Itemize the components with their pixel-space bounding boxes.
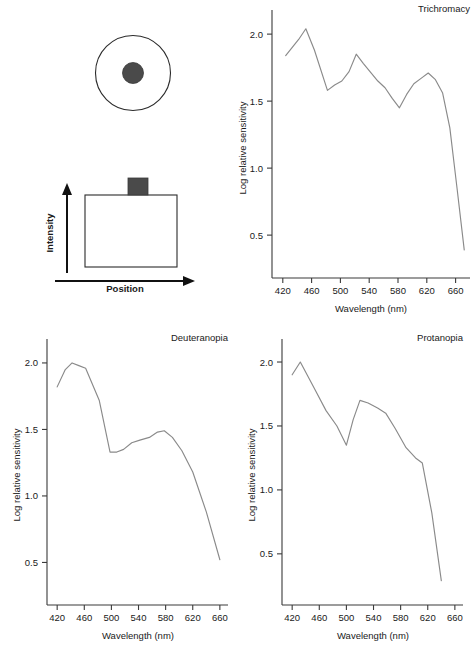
chart-svg-protanopia: 0.51.01.52.0 420460500540580620660 Log r… xyxy=(235,325,473,649)
chart-svg-trichromacy: 0.51.01.52.0 420460500540580620660 Log r… xyxy=(228,0,473,320)
chart-ylabel: Log relative sensitivity xyxy=(11,428,22,521)
chart-panel-deuteranopia: 0.51.01.52.0 420460500540580620660 Log r… xyxy=(0,325,238,649)
chart-axes xyxy=(47,339,228,605)
x-tick-label: 620 xyxy=(419,285,435,296)
chart-xlabel: Wavelength (nm) xyxy=(335,303,407,314)
chart-x-ticks: 420460500540580620660 xyxy=(275,278,464,296)
chart-series-line xyxy=(57,363,220,560)
stimulus-diagram-panel xyxy=(60,8,225,128)
x-tick-label: 420 xyxy=(275,285,291,296)
x-tick-label: 500 xyxy=(332,285,348,296)
x-tick-label: 580 xyxy=(393,612,409,623)
chart-x-ticks: 420460500540580620660 xyxy=(49,605,228,623)
y-tick-label: 2.0 xyxy=(250,29,263,40)
intensity-profile-rectangle xyxy=(85,195,177,267)
arrow-head-up-icon xyxy=(62,183,72,195)
y-tick-label: 2.0 xyxy=(25,357,38,368)
position-axis-label: Position xyxy=(106,283,144,294)
x-tick-label: 460 xyxy=(311,612,327,623)
x-tick-label: 660 xyxy=(212,612,228,623)
chart-xlabel: Wavelength (nm) xyxy=(102,630,174,641)
x-tick-label: 620 xyxy=(185,612,201,623)
x-tick-label: 660 xyxy=(448,285,464,296)
y-tick-label: 2.0 xyxy=(260,357,273,368)
y-tick-label: 1.0 xyxy=(250,163,263,174)
chart-panel-protanopia: 0.51.01.52.0 420460500540580620660 Log r… xyxy=(235,325,473,649)
chart-title: Trichromacy xyxy=(418,3,470,14)
x-tick-label: 420 xyxy=(49,612,65,623)
y-tick-label: 1.5 xyxy=(260,420,273,431)
intensity-axis-arrow xyxy=(62,183,72,273)
y-tick-label: 0.5 xyxy=(25,557,38,568)
y-tick-label: 0.5 xyxy=(250,230,263,241)
x-tick-label: 660 xyxy=(447,612,463,623)
x-tick-label: 420 xyxy=(284,612,300,623)
chart-xlabel: Wavelength (nm) xyxy=(337,630,409,641)
x-tick-label: 500 xyxy=(338,612,354,623)
chart-series-line xyxy=(292,362,441,581)
stimulus-center-dot-icon xyxy=(123,63,144,84)
chart-title: Deuteranopia xyxy=(171,332,229,343)
chart-panel-trichromacy: 0.51.01.52.0 420460500540580620660 Log r… xyxy=(228,0,473,320)
x-tick-label: 580 xyxy=(390,285,406,296)
chart-ylabel: Log relative sensitivity xyxy=(237,101,248,194)
chart-svg-deuteranopia: 0.51.01.52.0 420460500540580620660 Log r… xyxy=(0,325,238,649)
y-tick-label: 0.5 xyxy=(260,548,273,559)
chart-title: Protanopia xyxy=(417,332,464,343)
chart-y-ticks: 0.51.01.52.0 xyxy=(25,357,47,568)
chart-y-ticks: 0.51.01.52.0 xyxy=(250,29,272,241)
x-tick-label: 500 xyxy=(103,612,119,623)
x-tick-label: 540 xyxy=(366,612,382,623)
y-tick-label: 1.0 xyxy=(260,484,273,495)
figure-root: Intensity Position 0.51.01.52.0 42046050… xyxy=(0,0,473,649)
x-tick-label: 460 xyxy=(76,612,92,623)
intensity-profile-panel: Intensity Position xyxy=(25,168,225,293)
x-tick-label: 460 xyxy=(304,285,320,296)
arrow-head-right-icon xyxy=(183,276,195,286)
y-tick-label: 1.0 xyxy=(25,490,38,501)
x-tick-label: 540 xyxy=(131,612,147,623)
x-tick-label: 620 xyxy=(420,612,436,623)
intensity-axis-label: Intensity xyxy=(44,213,55,253)
y-tick-label: 1.5 xyxy=(250,96,263,107)
chart-ylabel: Log relative sensitivity xyxy=(246,428,257,521)
chart-y-ticks: 0.51.01.52.0 xyxy=(260,357,282,560)
chart-x-ticks: 420460500540580620660 xyxy=(284,605,463,623)
chart-axes xyxy=(272,10,470,278)
y-tick-label: 1.5 xyxy=(25,424,38,435)
intensity-profile-bump xyxy=(128,178,148,195)
chart-series-line xyxy=(286,29,465,250)
x-tick-label: 540 xyxy=(361,285,377,296)
x-tick-label: 580 xyxy=(158,612,174,623)
